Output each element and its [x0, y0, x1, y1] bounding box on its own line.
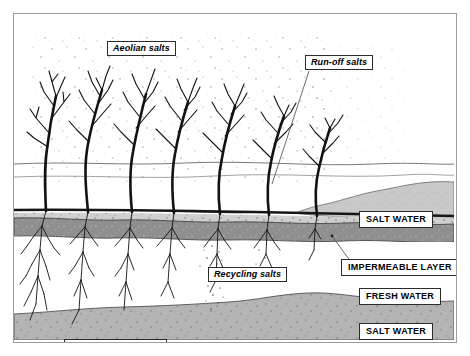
aeolian-salt-stipple	[32, 32, 332, 182]
impermeable-leader-anchor	[331, 235, 334, 238]
label-roots-mining-salts: Roots "mining" salts	[64, 339, 167, 343]
label-run-off-salts: Run-off salts	[305, 55, 373, 70]
label-impermeable-layer: IMPERMEABLE LAYER	[341, 259, 457, 276]
diagram-frame: Aeolian salts Run-off salts Recycling sa…	[13, 13, 457, 343]
label-recycling-salts: Recycling salts	[208, 267, 287, 282]
label-salt-water-upper: SALT WATER	[359, 211, 433, 228]
label-aeolian-salts: Aeolian salts	[107, 41, 176, 56]
label-salt-water-lower: SALT WATER	[359, 323, 433, 340]
diagram-canvas: Aeolian salts Run-off salts Recycling sa…	[0, 0, 470, 356]
label-fresh-water: FRESH WATER	[359, 288, 441, 305]
